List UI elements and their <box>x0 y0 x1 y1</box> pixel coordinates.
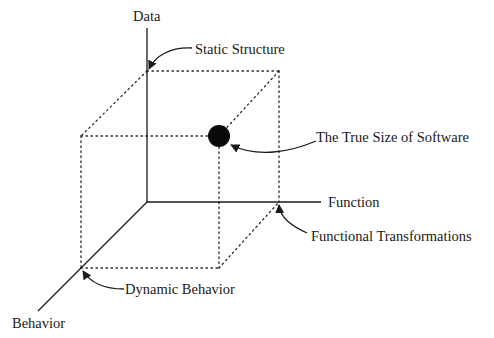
true-size-arrow <box>231 141 316 152</box>
dynamic-behavior-label: Dynamic Behavior <box>125 281 235 297</box>
static-structure-arrow <box>149 48 192 69</box>
data-axis-label: Data <box>133 8 161 24</box>
software-size-cube-diagram: Data Function Behavior Static Structure … <box>0 0 494 338</box>
function-axis-label: Function <box>328 194 380 210</box>
cube-edge-bottom-right-diag <box>219 202 279 268</box>
cube-edge-top-right-diag <box>219 71 279 136</box>
dynamic-behavior-arrow <box>83 271 124 289</box>
functional-transformations-label: Functional Transformations <box>311 228 472 244</box>
true-size-label: The True Size of Software <box>316 129 469 145</box>
static-structure-label: Static Structure <box>195 41 285 57</box>
functional-transformations-arrow <box>279 205 307 233</box>
annotation-arrows <box>83 48 316 289</box>
behavior-axis-label: Behavior <box>12 315 65 331</box>
true-size-point <box>208 125 230 147</box>
cube-edge-top-left-diag <box>81 71 147 136</box>
